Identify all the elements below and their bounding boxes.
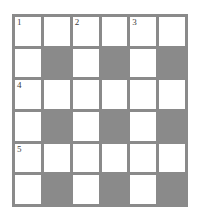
grid-block-cell bbox=[159, 175, 185, 204]
grid-open-cell[interactable] bbox=[15, 175, 41, 204]
grid-block-cell bbox=[102, 49, 128, 78]
grid-open-cell[interactable] bbox=[15, 112, 41, 141]
grid-block-cell bbox=[44, 49, 70, 78]
grid-open-cell[interactable] bbox=[44, 144, 70, 173]
grid-open-cell[interactable] bbox=[44, 17, 70, 46]
grid-open-cell[interactable] bbox=[159, 17, 185, 46]
grid-block-cell bbox=[102, 112, 128, 141]
grid-open-cell[interactable] bbox=[130, 112, 156, 141]
grid-open-cell[interactable] bbox=[73, 112, 99, 141]
grid-open-cell[interactable]: 5 bbox=[15, 144, 41, 173]
grid-block-cell bbox=[44, 175, 70, 204]
crossword-grid: 12345 bbox=[12, 14, 188, 207]
cell-number: 1 bbox=[17, 17, 22, 28]
cell-number: 3 bbox=[132, 17, 137, 28]
grid-open-cell[interactable] bbox=[73, 80, 99, 109]
grid-open-cell[interactable]: 1 bbox=[15, 17, 41, 46]
crossword-puzzle: 12345 bbox=[0, 0, 199, 219]
grid-open-cell[interactable] bbox=[130, 144, 156, 173]
cell-number: 5 bbox=[17, 144, 22, 155]
grid-block-cell bbox=[159, 112, 185, 141]
grid-open-cell[interactable] bbox=[102, 144, 128, 173]
grid-open-cell[interactable] bbox=[159, 144, 185, 173]
cell-number: 4 bbox=[17, 80, 22, 91]
grid-open-cell[interactable] bbox=[73, 144, 99, 173]
grid-open-cell[interactable] bbox=[102, 80, 128, 109]
grid-open-cell[interactable] bbox=[15, 49, 41, 78]
grid-open-cell[interactable] bbox=[130, 80, 156, 109]
grid-open-cell[interactable] bbox=[73, 49, 99, 78]
grid-block-cell bbox=[159, 49, 185, 78]
grid-open-cell[interactable] bbox=[130, 49, 156, 78]
grid-open-cell[interactable] bbox=[102, 17, 128, 46]
grid-block-cell bbox=[102, 175, 128, 204]
cell-number: 2 bbox=[75, 17, 80, 28]
grid-open-cell[interactable]: 2 bbox=[73, 17, 99, 46]
grid-block-cell bbox=[44, 112, 70, 141]
grid-open-cell[interactable] bbox=[130, 175, 156, 204]
grid-open-cell[interactable]: 4 bbox=[15, 80, 41, 109]
grid-open-cell[interactable] bbox=[159, 80, 185, 109]
grid-open-cell[interactable]: 3 bbox=[130, 17, 156, 46]
grid-open-cell[interactable] bbox=[73, 175, 99, 204]
grid-open-cell[interactable] bbox=[44, 80, 70, 109]
